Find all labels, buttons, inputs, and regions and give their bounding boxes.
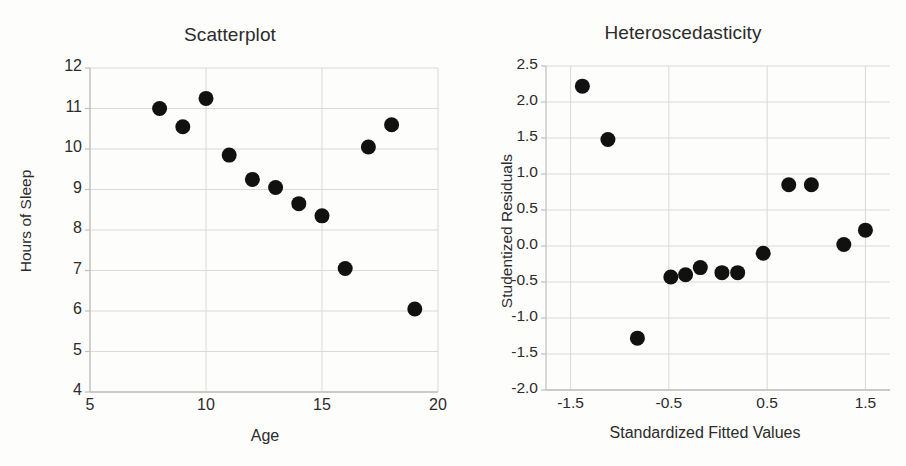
data-point: [730, 265, 745, 280]
data-point: [152, 101, 167, 116]
data-point: [781, 177, 796, 192]
y-axis-tick-label: 5: [60, 341, 82, 359]
y-axis-tick-label: -1.5: [502, 343, 538, 361]
x-axis-tick-label: -0.5: [639, 394, 699, 412]
y-axis-tick-label: 2.0: [502, 91, 538, 109]
data-point: [600, 132, 615, 147]
x-axis-tick-label: 20: [408, 396, 468, 414]
data-point: [199, 91, 214, 106]
data-point: [756, 246, 771, 261]
data-point: [361, 139, 376, 154]
y-axis-tick-label: 1.0: [502, 163, 538, 181]
data-point: [175, 119, 190, 134]
y-axis-tick-label: 7: [60, 260, 82, 278]
x-axis-tick-label: -1.5: [541, 394, 601, 412]
data-point: [663, 269, 678, 284]
x-axis-tick-label: 5: [60, 396, 120, 414]
y-axis-tick-label: 6: [60, 300, 82, 318]
chart-panel-scatterplot: Scatterplot Hours of Sleep Age 456789101…: [0, 0, 460, 466]
y-axis-tick-label: 0.5: [502, 199, 538, 217]
y-axis-tick-label: 12: [60, 57, 82, 75]
data-point: [315, 208, 330, 223]
data-point: [804, 177, 819, 192]
data-point: [575, 79, 590, 94]
y-axis-tick-label: 2.5: [502, 55, 538, 73]
data-point: [678, 267, 693, 282]
y-axis-tick-label: 10: [60, 138, 82, 156]
chart-panel-heteroscedasticity: Heteroscedasticity Studentized Residuals…: [460, 0, 906, 466]
data-point: [693, 260, 708, 275]
y-axis-tick-label: -2.0: [502, 379, 538, 397]
y-axis-tick-label: 8: [60, 219, 82, 237]
y-axis-tick-label: -1.0: [502, 307, 538, 325]
data-point: [836, 237, 851, 252]
y-axis-tick-label: 0.0: [502, 235, 538, 253]
x-axis-tick-label: 15: [292, 396, 352, 414]
y-axis-tick-label: -0.5: [502, 271, 538, 289]
y-axis-tick-label: 9: [60, 179, 82, 197]
x-axis-tick-label: 0.5: [737, 394, 797, 412]
x-axis-tick-label: 1.5: [835, 394, 895, 412]
data-point: [714, 265, 729, 280]
data-point: [222, 148, 237, 163]
data-point: [858, 223, 873, 238]
data-point: [291, 196, 306, 211]
data-point: [245, 172, 260, 187]
figure-container: Scatterplot Hours of Sleep Age 456789101…: [0, 0, 906, 466]
data-point: [268, 180, 283, 195]
data-point: [630, 331, 645, 346]
data-point: [407, 301, 422, 316]
y-axis-tick-label: 1.5: [502, 127, 538, 145]
x-axis-tick-label: 10: [176, 396, 236, 414]
y-axis-tick-label: 11: [60, 98, 82, 116]
data-point: [384, 117, 399, 132]
data-point: [338, 261, 353, 276]
